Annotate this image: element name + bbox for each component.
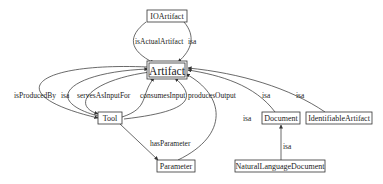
node-ioartifact[interactable]: IOArtifact	[147, 10, 187, 22]
node-identifiableartifact[interactable]: IdentifiableArtifact	[306, 112, 372, 124]
edge-label-hasparameter: hasParameter	[150, 139, 191, 148]
node-label-artifact: Artifact	[149, 65, 186, 77]
edge-label-tool-isa: isa	[61, 91, 70, 100]
edge-label-identifiable-isa: isa	[296, 91, 305, 100]
node-artifact[interactable]: Artifact	[147, 61, 187, 79]
node-label-identifiableartifact: IdentifiableArtifact	[308, 114, 371, 123]
node-label-document: Document	[264, 114, 298, 123]
edge-label-document-isa: isa	[262, 91, 271, 100]
node-label-tool: Tool	[103, 114, 118, 123]
node-parameter[interactable]: Parameter	[157, 160, 195, 172]
edge-label-ioartifact-isa: isa	[188, 37, 197, 46]
edge-label-parameter-isa: isa	[243, 114, 252, 123]
edge-identifiable-isa	[188, 68, 325, 112]
node-document[interactable]: Document	[262, 112, 300, 124]
edge-labels: isActualArtifact isa isProducedBy isa se…	[14, 37, 305, 151]
edge-label-producesoutput: producesOutput	[188, 91, 237, 100]
node-label-parameter: Parameter	[160, 162, 193, 171]
edge-label-servesasinputfor: servesAsInputFor	[77, 91, 131, 100]
node-label-naturallanguagedocument: NaturalLanguageDocument	[236, 162, 326, 171]
node-naturallanguagedocument[interactable]: NaturalLanguageDocument	[235, 160, 325, 172]
ontology-diagram: isActualArtifact isa isProducedBy isa se…	[0, 0, 383, 184]
edge-label-consumesinput: consumesInput	[140, 91, 186, 100]
edge-label-isproducedby: isProducedBy	[14, 91, 56, 100]
node-tool[interactable]: Tool	[98, 112, 122, 124]
node-label-ioartifact: IOArtifact	[150, 12, 184, 21]
edge-label-nldocument-isa: isa	[283, 142, 292, 151]
edge-label-isactualartifact: isActualArtifact	[135, 37, 184, 46]
